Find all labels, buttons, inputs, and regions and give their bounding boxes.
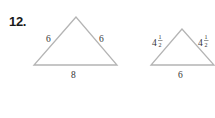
denominator: 2 xyxy=(205,42,208,48)
side-label-base: 6 xyxy=(178,70,183,80)
whole-part: 4 xyxy=(152,38,157,48)
whole-part: 4 xyxy=(198,38,203,48)
side-label-right: 6 xyxy=(99,34,104,44)
triangle-small: 4 1 2 4 1 2 6 xyxy=(151,29,214,80)
side-label-left-mixed-number: 4 1 2 xyxy=(152,34,163,48)
triangle-large: 6 6 8 xyxy=(34,17,117,80)
side-label-right-mixed-number: 4 1 2 xyxy=(198,34,209,48)
side-label-left: 6 xyxy=(46,34,51,44)
denominator: 2 xyxy=(159,42,162,48)
numerator: 1 xyxy=(159,34,162,40)
side-label-base: 8 xyxy=(71,70,76,80)
numerator: 1 xyxy=(205,34,208,40)
triangles-figure: 6 6 8 4 1 2 4 1 2 6 xyxy=(0,0,215,118)
